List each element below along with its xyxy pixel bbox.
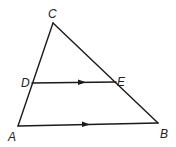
parallel-arrow-ab-icon [82, 122, 90, 128]
label-b: B [160, 127, 168, 141]
label-d: D [21, 76, 30, 90]
segment-cb [53, 23, 158, 123]
label-e: E [117, 75, 126, 89]
triangle-diagram: C D E A B [0, 0, 176, 147]
parallel-arrow-de-icon [78, 80, 86, 86]
segment-de [32, 82, 116, 83]
label-c: C [48, 7, 57, 21]
label-a: A [7, 130, 16, 144]
segment-ac [18, 23, 53, 126]
